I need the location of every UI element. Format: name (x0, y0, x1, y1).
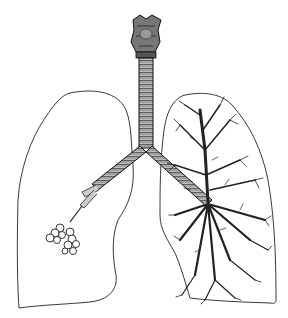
trachea (139, 58, 153, 148)
left-bronchus (92, 146, 146, 190)
right-bronchus (146, 146, 212, 206)
larynx (131, 15, 161, 58)
lungs-drawing (0, 0, 288, 318)
right-lung-outline (160, 93, 276, 303)
lungs-illustration (0, 0, 288, 318)
left-lung-outline (17, 91, 133, 308)
alveoli-cluster (46, 224, 80, 255)
